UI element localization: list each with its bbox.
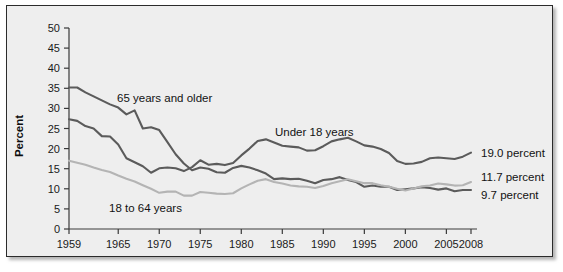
x-tick-label: 1990 [311,238,335,250]
x-tick-label: 1995 [352,238,376,250]
y-tick-label: 40 [48,62,60,74]
y-tick-label: 15 [48,163,60,175]
y-tick-label: 5 [54,203,60,215]
y-tick-label: 30 [48,102,60,114]
x-tick-label: 1975 [188,238,212,250]
annotation-series_under18: Under 18 years [275,126,354,138]
y-tick-label: 20 [48,143,60,155]
plot-area: 05101520253035404550 1959196519701975198… [7,6,554,258]
y-tick-label: 50 [48,22,60,34]
annotation-series_65_plus: 65 years and older [117,92,212,104]
chart-panel: 05101520253035404550 1959196519701975198… [6,5,553,257]
x-tick-label: 1970 [147,238,171,250]
x-tick-label: 1959 [57,238,81,250]
series-line-2 [69,161,471,196]
x-tick-label: 2008 [459,238,483,250]
y-axis-title: Percent [13,115,25,157]
end-label-end_9_7: 9.7 percent [481,189,539,201]
annotation-series_18_64: 18 to 64 years [109,202,182,214]
y-axis: 05101520253035404550 [48,22,69,235]
end-label-end_19_0: 19.0 percent [481,147,546,159]
y-tick-label: 45 [48,42,60,54]
x-tick-label: 1980 [229,238,253,250]
y-tick-label: 10 [48,183,60,195]
x-tick-label: 2005 [434,238,458,250]
series-line-1 [69,119,471,172]
x-tick-label: 1985 [270,238,294,250]
chart-screenshot: 05101520253035404550 1959196519701975198… [0,0,563,272]
x-tick-label: 1965 [106,238,130,250]
y-tick-label: 35 [48,82,60,94]
x-tick-label: 2000 [393,238,417,250]
end-label-end_11_7: 11.7 percent [481,171,545,183]
y-tick-label: 0 [54,223,60,235]
line-chart-svg: 05101520253035404550 1959196519701975198… [7,6,554,258]
x-axis: 1959196519701975198019851990199520002005… [57,229,483,250]
y-tick-label: 25 [48,123,60,135]
